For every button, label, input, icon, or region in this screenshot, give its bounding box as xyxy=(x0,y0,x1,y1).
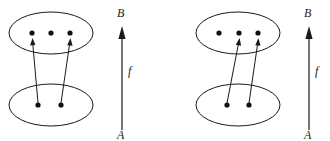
mapping-diagram-svg: B f A B f A xyxy=(0,0,330,141)
panel-right-mapping-arrow-1 xyxy=(227,44,238,103)
panel-left-domain-label: A xyxy=(116,128,125,141)
panel-left-codomain-label: B xyxy=(117,6,125,20)
panel-right-domain-dot-2 xyxy=(246,102,251,107)
panel-right-function-label: f xyxy=(315,64,320,78)
panel-right-axis-arrowhead xyxy=(305,26,312,39)
panel-left-domain-dot-1 xyxy=(35,102,40,107)
panel-left-codomain-dot-3 xyxy=(67,30,72,35)
panel-left-domain-dot-2 xyxy=(58,102,63,107)
panel-left-axis-arrowhead xyxy=(118,26,125,39)
panel-right-domain-ellipse xyxy=(196,84,280,126)
panel-right-codomain-dot-2 xyxy=(236,30,241,35)
panel-left: B f A xyxy=(9,6,133,141)
panel-right-codomain-label: B xyxy=(304,6,312,20)
panel-right-domain-dot-1 xyxy=(224,102,229,107)
panel-right-domain-label: A xyxy=(303,128,312,141)
panel-left-mapping-arrowhead-1 xyxy=(30,38,35,45)
panel-left-codomain-dot-1 xyxy=(29,30,34,35)
panel-right-mapping-arrowhead-2 xyxy=(255,38,260,46)
panel-right-mapping-arrowhead-1 xyxy=(236,38,241,46)
figure-canvas: B f A B f A xyxy=(0,0,330,141)
panel-left-function-label: f xyxy=(128,64,133,78)
panel-left-codomain-dot-2 xyxy=(48,30,53,35)
panel-left-domain-ellipse xyxy=(9,84,93,126)
panel-right-codomain-dot-1 xyxy=(216,30,221,35)
panel-right-codomain-dot-3 xyxy=(255,30,260,35)
panel-right: B f A xyxy=(196,6,320,141)
panel-left-mapping-arrowhead-2 xyxy=(67,38,72,46)
